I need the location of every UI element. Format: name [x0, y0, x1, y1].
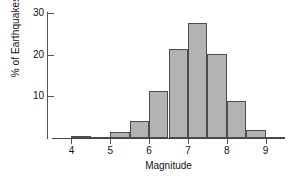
- histogram-bar: [130, 121, 149, 138]
- x-tick-label: 6: [140, 146, 158, 156]
- x-tick-label: 4: [62, 146, 80, 156]
- x-tick-mark: [188, 139, 189, 144]
- histogram-bar: [188, 23, 207, 138]
- histogram-chart: % of Earthquakes 102030 456789 Magnitude: [0, 0, 294, 181]
- x-axis-line: [52, 138, 285, 139]
- x-tick-label: 8: [218, 146, 236, 156]
- x-tick-mark: [266, 139, 267, 144]
- histogram-bar: [246, 130, 265, 138]
- x-axis-label: Magnitude: [52, 160, 285, 171]
- histogram-bar: [227, 101, 246, 139]
- x-tick-mark: [110, 139, 111, 144]
- x-tick-label: 5: [101, 146, 119, 156]
- x-tick-label: 9: [257, 146, 275, 156]
- x-tick-label: 7: [179, 146, 197, 156]
- histogram-bar: [149, 91, 168, 138]
- histogram-bar: [207, 54, 226, 138]
- x-tick-mark: [227, 139, 228, 144]
- histogram-bar: [169, 49, 188, 138]
- x-tick-mark: [149, 139, 150, 144]
- x-tick-mark: [71, 139, 72, 144]
